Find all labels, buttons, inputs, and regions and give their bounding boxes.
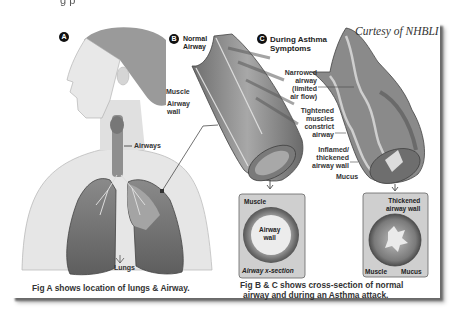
caption-fig-a: Fig A shows location of lungs & Airway. — [32, 283, 190, 293]
xsection-c-muscle-label: Muscle — [365, 268, 387, 275]
narrowed-airway-label: Narrowed airway (limited air flow) — [280, 69, 317, 101]
heading-line: Symptoms — [270, 44, 327, 53]
normal-airway-tube — [192, 34, 303, 189]
label-line: Inflamed/ — [305, 146, 349, 154]
airways-label: Airways — [134, 142, 161, 150]
marker-a: A — [59, 32, 69, 42]
muscle-label: Muscle — [166, 88, 190, 96]
label-line: Thickened — [386, 197, 420, 205]
xsection-c-mucus-label: Mucus — [401, 268, 422, 275]
credit-text: Curtesy of NHBLI — [355, 25, 439, 37]
label-line: (limited — [280, 85, 317, 93]
mucus-label: Mucus — [336, 173, 358, 181]
normal-airway-heading: Normal Airway — [183, 35, 207, 51]
xsection-title: Airway x-section — [242, 267, 294, 274]
label-line: constrict — [296, 123, 334, 131]
label-line: Airway — [259, 226, 280, 234]
tightened-muscles-label: Tightened muscles constrict airway — [296, 107, 334, 139]
heading-line: Airway — [183, 43, 207, 51]
asthma-heading: During Asthma Symptoms — [270, 35, 327, 53]
label-line: Tightened — [296, 107, 334, 115]
label-line: airway — [280, 77, 317, 85]
heading-line: During Asthma — [270, 35, 327, 44]
label-line: air flow) — [280, 93, 317, 101]
heading-line: Normal — [183, 35, 207, 43]
label-line: thickened — [305, 154, 349, 162]
caption-line: Fig B & C shows cross-section of normal — [240, 280, 403, 290]
label-line: Airway — [167, 100, 190, 108]
human-figure — [22, 27, 218, 275]
xsection-muscle-label: Muscle — [244, 198, 266, 205]
illustration — [0, 0, 458, 320]
airway-wall-label: Airway wall — [167, 100, 190, 116]
xsection-airway-wall-label: Airway wall — [259, 226, 280, 242]
label-line: Narrowed — [280, 69, 317, 77]
label-line: wall — [259, 234, 280, 242]
caption-line: airway and during an Asthma attack. — [240, 290, 403, 300]
caption-fig-bc: Fig B & C shows cross-section of normal … — [240, 280, 403, 300]
label-line: wall — [167, 108, 190, 116]
label-line: airway — [296, 131, 334, 139]
label-line: airway wall — [386, 205, 420, 213]
label-line: airway wall — [305, 162, 349, 170]
lungs-label: Lungs — [114, 264, 135, 272]
label-line: muscles — [296, 115, 334, 123]
thickened-wall-label: Thickened airway wall — [386, 197, 420, 213]
marker-c: C — [257, 34, 267, 44]
marker-b: B — [169, 34, 179, 44]
inflamed-wall-label: Inflamed/ thickened airway wall — [305, 146, 349, 170]
